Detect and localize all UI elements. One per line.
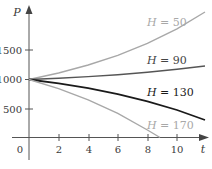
- x-tick-label-2: 2: [56, 144, 62, 155]
- origin-label: 0: [17, 144, 23, 155]
- y-tick-label-500: 500: [3, 104, 22, 115]
- label-h50: H = 50: [146, 16, 187, 29]
- y-axis-label: P: [12, 6, 21, 19]
- x-axis-arrow-icon: [199, 134, 209, 141]
- y-tick-label-1500: 1500: [0, 45, 22, 56]
- x-axis-label: t: [201, 143, 206, 156]
- curve-h90: [29, 66, 205, 80]
- chart-canvas: 2 4 6 8 10 0 1500 1000 500 P t H = 50 H …: [0, 0, 212, 169]
- y-axis-arrow-icon: [26, 5, 33, 14]
- x-tick-label-10: 10: [171, 144, 184, 155]
- y-tick-label-1000: 1000: [0, 74, 22, 85]
- label-h170: H = 170: [146, 119, 194, 132]
- x-tick-label-8: 8: [145, 144, 151, 155]
- label-h90: H = 90: [146, 54, 187, 67]
- x-tick-label-4: 4: [86, 144, 92, 155]
- x-tick-label-6: 6: [115, 144, 121, 155]
- label-h130: H = 130: [146, 86, 194, 99]
- curve-h170: [29, 80, 160, 138]
